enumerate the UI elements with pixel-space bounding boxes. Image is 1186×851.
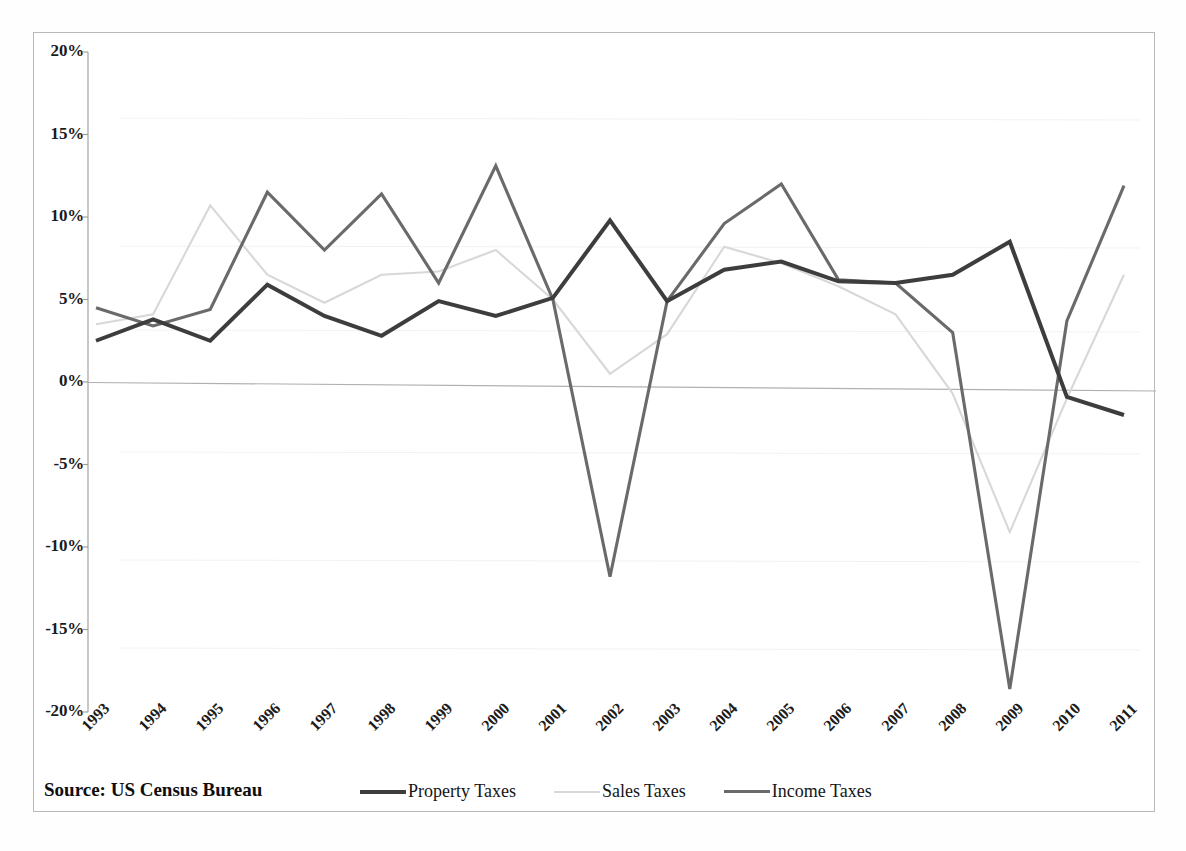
y-axis-tick-neg5pct: -5% [22,454,84,474]
legend-swatch-icon [724,790,770,793]
legend-label: Property Taxes [408,781,516,802]
chart-page: 20%15%10%5%0%-5%-10%-15%-20% 19931994199… [0,0,1186,851]
source-note: Source: US Census Bureau [44,779,262,801]
legend-item-property-taxes[interactable]: Property Taxes [360,781,516,802]
y-axis-tick-20pct: 20% [22,41,84,61]
y-axis-tick-15pct: 15% [22,124,84,144]
y-axis-tick-5pct: 5% [22,289,84,309]
y-axis-tick-0pct: 0% [22,371,84,391]
legend-item-sales-taxes[interactable]: Sales Taxes [554,781,686,802]
chart-frame [33,32,1155,812]
legend-swatch-icon [360,790,406,794]
y-axis-tick-neg20pct: -20% [22,701,84,721]
legend-swatch-icon [554,791,600,793]
legend-label: Income Taxes [772,781,872,802]
y-axis-tick-neg10pct: -10% [22,536,84,556]
chart-legend: Property TaxesSales TaxesIncome Taxes [360,781,872,802]
y-axis-tick-10pct: 10% [22,206,84,226]
legend-item-income-taxes[interactable]: Income Taxes [724,781,872,802]
legend-label: Sales Taxes [602,781,686,802]
y-axis-tick-neg15pct: -15% [22,619,84,639]
